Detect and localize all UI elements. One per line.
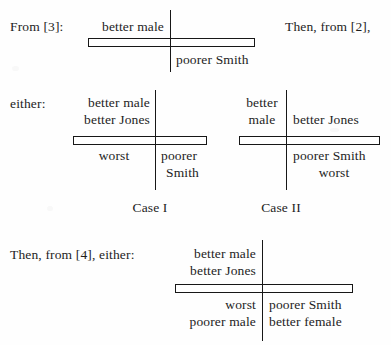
scan-speckle bbox=[47, 206, 53, 211]
case2-vertical-divider bbox=[286, 90, 287, 190]
case2-horizontal-bar bbox=[239, 136, 380, 145]
case1-vertical-divider bbox=[155, 90, 156, 190]
figure4-lower-right-line2: better female bbox=[269, 314, 342, 329]
case2-upper-right-label: better Jones bbox=[293, 112, 359, 127]
case1-lower-right-line1: poorer bbox=[161, 148, 197, 163]
figure4-lower-left-line2: poorer male bbox=[190, 314, 257, 329]
cases-lead-label: either: bbox=[10, 96, 46, 111]
case1-caption: Case I bbox=[132, 200, 167, 215]
figure4-upper-left-line1: better male bbox=[194, 246, 256, 261]
scan-speckle bbox=[330, 128, 339, 132]
figure4-lower-right-line1: poorer Smith bbox=[269, 297, 342, 312]
figure4-lower-left-line1: worst bbox=[225, 297, 256, 312]
figure1-lead-label: From [3]: bbox=[10, 19, 63, 34]
figure1-side-note: Then, from [2], bbox=[285, 19, 370, 34]
case2-upper-left-line2: male bbox=[249, 112, 276, 127]
case1-upper-left-line1: better male bbox=[88, 95, 150, 110]
case1-upper-left-line2: better Jones bbox=[84, 112, 150, 127]
scanned-figure-page: Cross diagrams From [3]: Then, from [2],… bbox=[0, 0, 391, 345]
case2-caption: Case II bbox=[261, 200, 301, 215]
case2-upper-left-line1: better bbox=[246, 95, 278, 110]
figure1-lower-right-label: poorer Smith bbox=[176, 52, 249, 67]
figure4-horizontal-bar bbox=[175, 284, 353, 293]
case2-lower-right-line2: worst bbox=[319, 165, 350, 180]
case1-lower-right-line2: Smith bbox=[166, 165, 199, 180]
case1-lower-left-label: worst bbox=[99, 148, 130, 163]
figure1-horizontal-bar bbox=[88, 38, 255, 47]
figure4-upper-left-line2: better Jones bbox=[190, 263, 256, 278]
figure4-lead-label: Then, from [4], either: bbox=[10, 247, 135, 262]
case2-lower-right-line1: poorer Smith bbox=[293, 148, 366, 163]
figure1-vertical-divider bbox=[170, 10, 171, 72]
figure4-vertical-divider bbox=[262, 240, 263, 341]
figure1-upper-left-label: better male bbox=[102, 19, 164, 34]
scan-speckle bbox=[12, 66, 19, 71]
case1-horizontal-bar bbox=[73, 136, 207, 145]
